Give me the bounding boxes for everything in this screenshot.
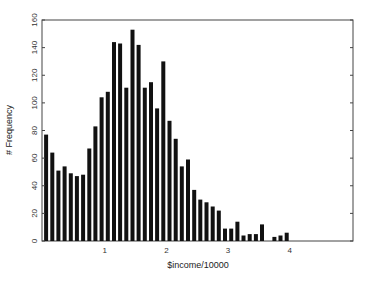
histogram-bar bbox=[50, 153, 54, 241]
y-axis-label: # Frequency bbox=[4, 104, 14, 155]
histogram-bar bbox=[192, 190, 196, 241]
y-tick-label: 160 bbox=[30, 13, 39, 27]
histogram-bar bbox=[44, 135, 48, 241]
histogram-bar bbox=[63, 166, 67, 241]
histogram-bar bbox=[279, 236, 283, 242]
y-tick-label: 40 bbox=[30, 181, 39, 190]
histogram-bar bbox=[186, 160, 190, 242]
histogram-bar bbox=[155, 108, 159, 241]
histogram-bar bbox=[285, 233, 289, 241]
histogram-chart: 020406080100120140160 1234 $income/10000… bbox=[0, 0, 371, 284]
histogram-bar bbox=[87, 149, 91, 242]
histogram-bar bbox=[81, 175, 85, 241]
histogram-bar bbox=[254, 234, 258, 241]
histogram-bar bbox=[211, 207, 215, 242]
y-tick-label: 0 bbox=[30, 238, 39, 243]
histogram-bar bbox=[112, 42, 116, 241]
histogram-bar bbox=[223, 229, 227, 241]
y-tick-label: 100 bbox=[30, 96, 39, 110]
y-tick-label: 140 bbox=[30, 40, 39, 54]
y-tick-label: 80 bbox=[30, 126, 39, 135]
x-tick-label: 3 bbox=[226, 246, 231, 255]
histogram-bar bbox=[180, 166, 184, 241]
histogram-bar bbox=[242, 236, 246, 242]
histogram-bar bbox=[205, 202, 209, 241]
histogram-bar bbox=[124, 88, 128, 241]
x-tick-label: 4 bbox=[288, 246, 293, 255]
histogram-bar bbox=[174, 139, 178, 241]
histogram-bar bbox=[198, 200, 202, 241]
x-axis-ticks: 1234 bbox=[102, 246, 292, 255]
histogram-bar bbox=[143, 88, 147, 241]
histogram-bar bbox=[106, 92, 110, 241]
histogram-bar bbox=[260, 224, 264, 241]
histogram-bar bbox=[131, 30, 135, 241]
histogram-bar bbox=[100, 97, 104, 241]
histogram-bar bbox=[161, 61, 165, 241]
histogram-bar bbox=[69, 173, 73, 241]
histogram-bar bbox=[56, 171, 60, 241]
histogram-bar bbox=[137, 45, 141, 241]
y-tick-label: 20 bbox=[30, 208, 39, 217]
histogram-bar bbox=[272, 237, 276, 241]
histogram-bar bbox=[168, 121, 172, 241]
histogram-bar bbox=[235, 222, 239, 241]
x-axis-label: $income/10000 bbox=[167, 260, 229, 270]
histogram-bar bbox=[93, 126, 97, 241]
y-tick-label: 120 bbox=[30, 68, 39, 82]
y-tick-label: 60 bbox=[30, 153, 39, 162]
bars bbox=[44, 30, 289, 241]
histogram-bar bbox=[118, 44, 122, 242]
x-tick-label: 1 bbox=[102, 246, 107, 255]
histogram-bar bbox=[217, 211, 221, 241]
histogram-bar bbox=[75, 176, 79, 241]
histogram-bar bbox=[149, 82, 153, 241]
x-tick-label: 2 bbox=[164, 246, 169, 255]
histogram-bar bbox=[229, 229, 233, 241]
histogram-bar bbox=[248, 234, 252, 241]
